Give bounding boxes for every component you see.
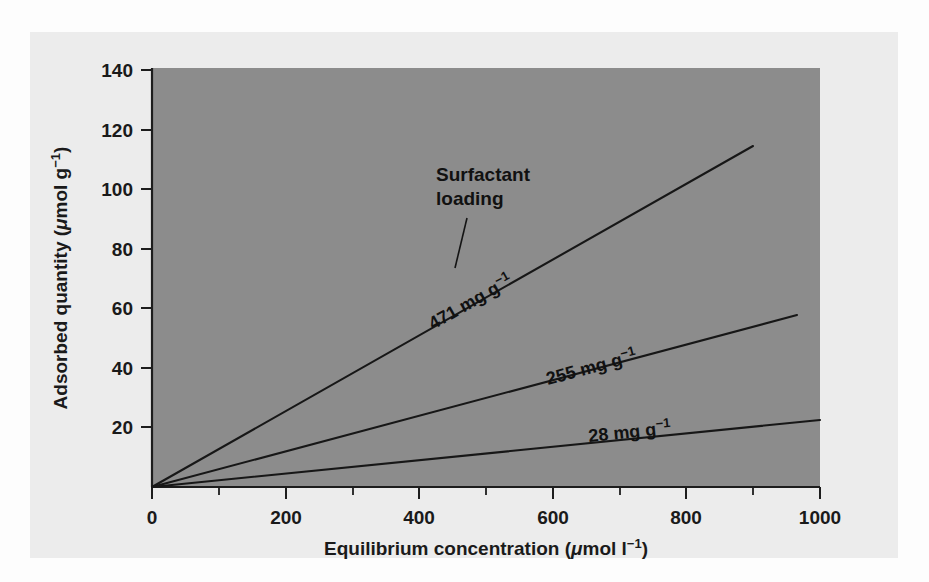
x-axis-title-mu: μ: [570, 538, 583, 559]
y-axis-title-main: Adsorbed quantity (: [50, 229, 71, 409]
y-axis-title-mid: mol g: [50, 168, 71, 219]
x-axis-title-main: Equilibrium concentration (: [324, 538, 572, 559]
y-tick-label-100: 100: [101, 179, 133, 200]
y-axis-title-sup: −1: [48, 153, 63, 168]
plot-background: [152, 68, 820, 487]
x-tick-label-0: 0: [147, 507, 158, 528]
x-axis-title: Equilibrium concentration (μmol l−1): [324, 536, 648, 559]
x-tick-label-800: 800: [670, 507, 702, 528]
y-tick-label-140: 140: [101, 60, 133, 81]
annotation-surfactant-loading-line2: loading: [436, 188, 504, 209]
y-tick-label-80: 80: [112, 239, 133, 260]
y-tick-label-120: 120: [101, 120, 133, 141]
x-tick-label-600: 600: [537, 507, 569, 528]
x-axis-title-mid: mol l: [582, 538, 626, 559]
y-tick-label-40: 40: [112, 358, 133, 379]
x-axis-ticks-minor: [219, 487, 753, 495]
figure-root: 140 120 100 80 60 40 20 0 200 400 600 80…: [0, 0, 929, 582]
y-tick-label-60: 60: [112, 298, 133, 319]
series-label-28-sup: −1: [655, 415, 671, 431]
x-tick-label-200: 200: [270, 507, 302, 528]
y-axis-title-end: ): [50, 147, 71, 153]
annotation-surfactant-loading-line1: Surfactant: [436, 164, 531, 185]
x-tick-label-400: 400: [403, 507, 435, 528]
y-axis-title-mu: μ: [50, 218, 71, 231]
y-axis-title: Adsorbed quantity (μmol g−1): [48, 147, 71, 410]
x-tick-label-1000: 1000: [799, 507, 841, 528]
y-tick-label-20: 20: [112, 417, 133, 438]
x-axis-title-end: ): [642, 538, 648, 559]
x-axis-title-sup: −1: [627, 536, 642, 551]
chart-canvas: 140 120 100 80 60 40 20 0 200 400 600 80…: [0, 0, 929, 582]
y-axis-ticks: [141, 70, 152, 427]
